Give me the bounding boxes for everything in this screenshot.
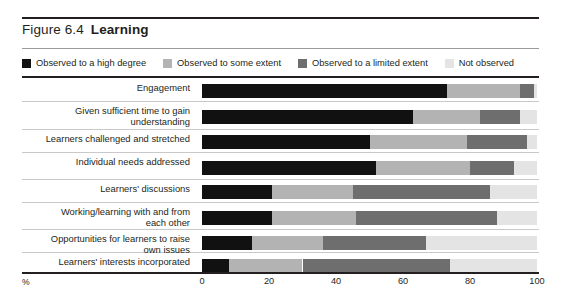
x-tick-label: 20: [264, 276, 274, 286]
legend-swatch-limited-extent: [298, 59, 307, 68]
bar-segment-observed-to-a-high-degree: [202, 185, 272, 199]
bar-segment-observed-to-a-high-degree: [202, 236, 252, 250]
bar-segment-observed-to-a-high-degree: [202, 259, 229, 273]
legend-item-not-observed: Not observed: [445, 58, 514, 68]
bar-segment-observed-to-a-limited-extent: [353, 185, 490, 199]
bar-segment-observed-to-a-limited-extent: [323, 236, 427, 250]
legend-label-not-observed: Not observed: [459, 58, 514, 68]
bar-segment-not-observed: [514, 161, 537, 175]
bar-segment-not-observed: [450, 259, 537, 273]
x-axis-tick-labels: 020406080100: [0, 276, 561, 290]
legend-label-limited-extent: Observed to a limited extent: [312, 58, 428, 68]
bar-segment-observed-to-some-extent: [413, 110, 480, 124]
figure-container: Figure 6.4Learning Observed to a high de…: [0, 0, 561, 303]
bar-segment-observed-to-some-extent: [272, 211, 356, 225]
row-label: Working/learning with and from each othe…: [22, 206, 190, 228]
chart-plot-area: EngagementGiven sufficient time to gain …: [0, 79, 561, 272]
legend-item-high-degree: Observed to a high degree: [22, 58, 146, 68]
row-label: Learners' discussions: [22, 183, 190, 194]
figure-number: Figure 6.4: [22, 22, 84, 37]
stacked-bar: [202, 161, 537, 175]
row-label: Given sufficient time to gain understand…: [22, 105, 190, 127]
bar-segment-observed-to-a-limited-extent: [480, 110, 520, 124]
top-rule: [22, 17, 539, 19]
bar-segment-observed-to-some-extent: [229, 259, 303, 273]
row-label: Engagement: [22, 82, 190, 93]
bar-segment-observed-to-some-extent: [376, 161, 470, 175]
title-divider: [22, 48, 539, 49]
bar-segment-observed-to-a-limited-extent: [356, 211, 497, 225]
row-separator: [22, 101, 539, 102]
bar-segment-not-observed: [490, 185, 537, 199]
stacked-bar: [202, 236, 537, 250]
stacked-bar: [202, 185, 537, 199]
row-separator: [22, 152, 539, 153]
x-tick-label: 0: [199, 276, 204, 286]
bar-segment-not-observed: [497, 211, 537, 225]
bar-segment-observed-to-some-extent: [370, 135, 467, 149]
bar-segment-observed-to-a-high-degree: [202, 211, 272, 225]
bar-segment-not-observed: [426, 236, 537, 250]
bar-segment-observed-to-a-high-degree: [202, 161, 376, 175]
legend-divider: [22, 76, 539, 78]
legend-item-some-extent: Observed to some extent: [163, 58, 281, 68]
legend-label-some-extent: Observed to some extent: [177, 58, 281, 68]
row-label: Opportunities for learners to raise own …: [22, 233, 190, 255]
bar-segment-observed-to-a-limited-extent: [467, 135, 527, 149]
legend-swatch-not-observed: [445, 59, 454, 68]
bar-segment-observed-to-some-extent: [447, 84, 521, 98]
bar-segment-not-observed: [527, 135, 537, 149]
bar-segment-observed-to-a-limited-extent: [520, 84, 533, 98]
row-separator: [22, 229, 539, 230]
legend-swatch-high-degree: [22, 59, 31, 68]
bar-segment-observed-to-some-extent: [252, 236, 322, 250]
bar-segment-observed-to-a-limited-extent: [303, 259, 450, 273]
bar-segment-observed-to-a-high-degree: [202, 84, 447, 98]
stacked-bar: [202, 135, 537, 149]
row-separator: [22, 129, 539, 130]
chart-legend: Observed to a high degree Observed to so…: [22, 55, 541, 71]
row-separator: [22, 202, 539, 203]
bar-segment-observed-to-a-limited-extent: [470, 161, 514, 175]
bar-segment-observed-to-some-extent: [272, 185, 352, 199]
bar-segment-observed-to-a-high-degree: [202, 135, 370, 149]
legend-item-limited-extent: Observed to a limited extent: [298, 58, 428, 68]
stacked-bar: [202, 211, 537, 225]
x-tick-label: 40: [331, 276, 341, 286]
page-title: Figure 6.4Learning: [22, 22, 149, 37]
figure-name: Learning: [91, 22, 149, 37]
stacked-bar: [202, 84, 537, 98]
x-tick-label: 100: [529, 276, 544, 286]
x-tick-label: 80: [465, 276, 475, 286]
x-axis-line: [22, 272, 539, 274]
stacked-bar: [202, 259, 537, 273]
row-label: Individual needs addressed: [22, 156, 190, 167]
bar-segment-not-observed: [520, 110, 537, 124]
legend-swatch-some-extent: [163, 59, 172, 68]
row-label: Learners challenged and stretched: [22, 133, 190, 144]
legend-label-high-degree: Observed to a high degree: [36, 58, 146, 68]
bar-segment-observed-to-a-high-degree: [202, 110, 413, 124]
x-tick-label: 60: [398, 276, 408, 286]
bar-segment-not-observed: [534, 84, 537, 98]
row-label: Learners' interests incorporated: [22, 256, 190, 267]
row-separator: [22, 179, 539, 180]
stacked-bar: [202, 110, 537, 124]
